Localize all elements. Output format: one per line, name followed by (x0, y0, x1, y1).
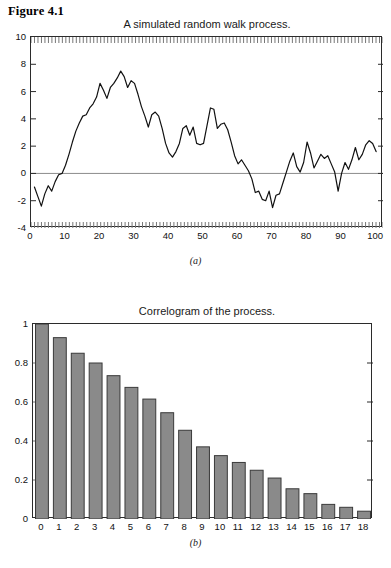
x-tick-label: 10 (215, 521, 226, 532)
y-tick-label: 0 (0, 513, 28, 524)
x-tick-label: 8 (181, 521, 186, 532)
x-tick-label: 60 (232, 230, 243, 241)
chart-title-random-walk: A simulated random walk process. (28, 18, 386, 30)
y-tick-label: 0 (0, 167, 26, 178)
x-tick-label: 9 (199, 521, 204, 532)
x-tick-label: 6 (146, 521, 151, 532)
x-tick-label: 40 (163, 230, 174, 241)
x-tick-label: 50 (197, 230, 208, 241)
x-tick-label: 7 (164, 521, 169, 532)
panel-caption-a: (a) (0, 255, 391, 266)
x-tick-label: 18 (358, 521, 369, 532)
x-tick-label: 1 (56, 521, 61, 532)
panel-caption-b: (b) (0, 537, 391, 548)
figure-label: Figure 4.1 (8, 4, 64, 19)
x-tick-label: 100 (367, 230, 383, 241)
chart-panel-random-walk: A simulated random walk process. -4-2024… (0, 18, 391, 288)
plot-area-correlogram (32, 323, 372, 518)
chart-title-correlogram: Correlogram of the process. (28, 305, 386, 317)
y-tick-label: 2 (0, 140, 26, 151)
x-tick-label: 12 (250, 521, 261, 532)
x-tick-label: 13 (268, 521, 279, 532)
x-tick-label: 80 (301, 230, 312, 241)
y-tick-label: 1 (0, 318, 28, 329)
correlogram-plot-svg (33, 324, 373, 519)
y-tick-label: 0.8 (0, 357, 28, 368)
chart-panel-correlogram: Correlogram of the process. 00.20.40.60.… (0, 305, 391, 565)
y-tick-label: 10 (0, 31, 26, 42)
y-tick-label: -4 (0, 222, 26, 233)
x-tick-label: 2 (74, 521, 79, 532)
random-walk-plot-svg (31, 37, 383, 228)
x-tick-label: 17 (340, 521, 351, 532)
plot-area-random-walk (30, 36, 382, 227)
y-tick-label: -2 (0, 194, 26, 205)
y-tick-label: 0.2 (0, 474, 28, 485)
x-tick-label: 90 (335, 230, 346, 241)
y-tick-label: 6 (0, 85, 26, 96)
x-tick-label: 30 (128, 230, 139, 241)
x-tick-label: 20 (94, 230, 105, 241)
y-tick-label: 4 (0, 112, 26, 123)
x-tick-label: 0 (27, 230, 32, 241)
x-tick-label: 3 (92, 521, 97, 532)
x-tick-label: 5 (128, 521, 133, 532)
x-tick-label: 11 (233, 521, 243, 532)
x-tick-label: 15 (304, 521, 315, 532)
x-tick-label: 0 (38, 521, 43, 532)
x-tick-label: 14 (286, 521, 297, 532)
x-tick-label: 4 (110, 521, 115, 532)
y-tick-label: 0.4 (0, 435, 28, 446)
x-tick-label: 10 (59, 230, 70, 241)
x-tick-label: 70 (266, 230, 277, 241)
y-tick-label: 0.6 (0, 396, 28, 407)
y-tick-label: 8 (0, 58, 26, 69)
x-tick-label: 16 (322, 521, 333, 532)
